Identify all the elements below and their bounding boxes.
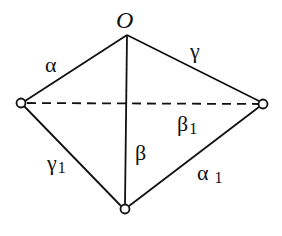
edge-label-alpha: α: [45, 52, 57, 77]
edge-o-bottom: [125, 35, 127, 205]
edge-label-gamma: γ: [189, 38, 200, 63]
vertex-left: [17, 99, 26, 108]
edge-label-gamma1: γ1: [46, 150, 66, 176]
tetrahedron-diagram: O α γ β β1 γ1 α1: [0, 0, 282, 236]
edge-left-bottom: [24, 106, 121, 206]
edge-label-alpha1: α1: [197, 160, 223, 186]
edge-o-left: [25, 35, 127, 101]
apex-label: O: [116, 7, 133, 33]
edge-label-beta: β: [135, 140, 146, 165]
edge-label-beta1: β1: [177, 111, 197, 137]
vertex-right: [259, 100, 268, 109]
edge-left-right-dashed: [27, 103, 258, 104]
vertex-bottom: [121, 205, 130, 214]
